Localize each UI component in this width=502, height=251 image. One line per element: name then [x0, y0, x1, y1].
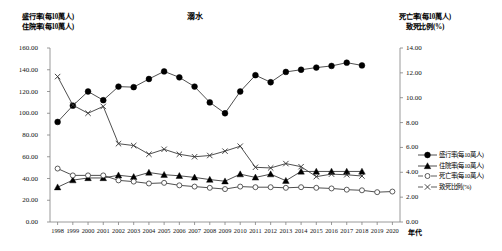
right-tick-label: 12.00 [406, 69, 438, 77]
data-point-filled-circle [100, 97, 106, 103]
data-point-filled-circle [283, 69, 289, 75]
data-point-open-circle [207, 185, 212, 190]
data-point-open-circle [86, 173, 91, 178]
data-point-filled-circle [116, 84, 122, 90]
left-tick-label: 120.00 [8, 88, 38, 96]
data-point-open-circle [283, 185, 288, 190]
data-point-open-circle [344, 187, 349, 192]
data-point-filled-circle [192, 84, 198, 90]
right-tick-label: 6.00 [406, 143, 438, 151]
x-axis-name: 年代 [408, 227, 422, 237]
legend-marker-filled-circle-icon [418, 150, 438, 160]
data-point-open-circle [146, 181, 151, 186]
left-tick-label: 140.00 [8, 66, 38, 74]
data-point-open-circle [238, 184, 243, 189]
legend-label: 致死比例(%) [438, 182, 471, 193]
data-point-filled-circle [131, 84, 137, 90]
x-tick-label: 2020 [381, 227, 403, 234]
data-point-filled-circle [146, 76, 152, 82]
data-point-open-circle [162, 180, 167, 185]
legend-marker-cross-icon [418, 182, 438, 192]
data-point-filled-circle [55, 119, 61, 125]
data-point-filled-circle [329, 63, 335, 69]
data-point-filled-circle [237, 89, 243, 95]
right-tick-label: 14.00 [406, 44, 438, 52]
series-line [58, 63, 362, 122]
data-point-open-circle [375, 190, 380, 195]
left-axis-title-line2: 住院率(每10萬人) [22, 22, 74, 32]
right-axis-title-line1: 死亡率(每10萬人) [382, 12, 468, 22]
data-point-filled-triangle [267, 171, 274, 177]
data-point-filled-circle [425, 152, 431, 158]
legend-item[interactable]: 致死比例(%) [418, 182, 484, 193]
left-tick-label: 0.00 [8, 218, 38, 226]
data-point-filled-circle [207, 99, 213, 105]
legend-label: 住院率(每10萬人) [438, 161, 484, 172]
right-tick-label: 0.00 [406, 218, 438, 226]
left-tick-label: 40.00 [8, 175, 38, 183]
right-tick-label: 10.00 [406, 94, 438, 102]
data-point-open-circle [131, 179, 136, 184]
right-axis-title-line2: 致死比例(%) [382, 22, 468, 32]
legend-item[interactable]: 盛行率(每10萬人) [418, 150, 484, 161]
data-point-open-circle [253, 185, 258, 190]
legend-label: 死亡率(每10萬人) [438, 171, 484, 182]
left-axis-title: 盛行率(每10萬人) 住院率(每10萬人) [22, 12, 74, 32]
left-tick-label: 60.00 [8, 153, 38, 161]
data-point-filled-circle [222, 110, 228, 116]
data-point-open-circle [177, 183, 182, 188]
right-tick-label: 4.00 [406, 168, 438, 176]
chart-container: 盛行率(每10萬人) 住院率(每10萬人) 溺水 死亡率(每10萬人) 致死比例… [0, 0, 502, 251]
data-point-open-circle [223, 187, 228, 192]
right-tick-label: 8.00 [406, 119, 438, 127]
data-point-open-circle [116, 178, 121, 183]
data-point-open-circle [390, 189, 395, 194]
data-point-filled-triangle [115, 172, 122, 178]
data-point-filled-triangle [283, 177, 290, 183]
data-point-filled-triangle [146, 169, 153, 175]
data-point-filled-circle [298, 67, 304, 73]
legend-label: 盛行率(每10萬人) [438, 150, 484, 161]
data-point-filled-circle [268, 79, 274, 85]
data-point-filled-circle [313, 65, 319, 71]
data-point-open-circle [192, 184, 197, 189]
data-point-open-circle [101, 173, 106, 178]
data-point-filled-triangle [54, 184, 61, 190]
data-point-open-circle [329, 186, 334, 191]
data-point-open-circle [299, 185, 304, 190]
chart-title: 溺水 [150, 10, 240, 21]
data-point-open-circle [314, 185, 319, 190]
left-tick-label: 80.00 [8, 131, 38, 139]
series-4 [55, 74, 365, 179]
series-line [58, 77, 362, 177]
left-axis-title-line1: 盛行率(每10萬人) [22, 12, 74, 22]
left-tick-label: 20.00 [8, 196, 38, 204]
right-axis-title: 死亡率(每10萬人) 致死比例(%) [382, 12, 468, 32]
data-point-filled-triangle [237, 171, 244, 177]
data-point-filled-circle [176, 74, 182, 80]
data-point-open-circle [70, 173, 75, 178]
data-point-filled-circle [161, 68, 167, 74]
left-tick-label: 160.00 [8, 44, 38, 52]
data-point-filled-circle [253, 72, 259, 78]
data-point-filled-circle [85, 89, 91, 95]
data-point-filled-circle [359, 63, 365, 69]
data-point-open-circle [55, 166, 60, 171]
left-tick-label: 100.00 [8, 109, 38, 117]
series-1 [55, 60, 365, 125]
data-point-filled-circle [344, 60, 350, 66]
right-tick-label: 2.00 [406, 193, 438, 201]
data-point-open-circle [359, 188, 364, 193]
data-point-open-circle [268, 185, 273, 190]
